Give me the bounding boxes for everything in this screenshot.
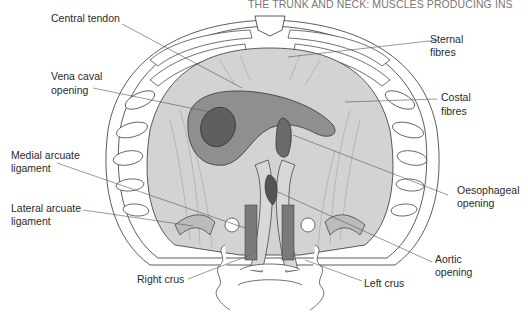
label-central-tendon: Central tendon: [51, 12, 120, 24]
label-aortic-line2: opening: [435, 266, 472, 278]
label-lateral-arcuate-line2: ligament: [11, 215, 51, 227]
label-medial-arcuate-line2: ligament: [11, 162, 51, 174]
label-right-crus: Right crus: [137, 273, 184, 285]
label-sternal-line1: Sternal: [430, 33, 463, 45]
label-oesophageal-line2: opening: [457, 197, 494, 209]
label-left-crus: Left crus: [364, 277, 404, 289]
label-costal-line2: fibres: [441, 105, 467, 117]
label-vena-caval-line2: opening: [51, 84, 88, 96]
left-crus-tendon: [282, 205, 294, 260]
right-crus-tendon: [245, 205, 257, 260]
label-vena-caval-line1: Vena caval: [51, 70, 102, 82]
oesophageal-opening: [276, 118, 291, 157]
label-oesophageal-line1: Oesophageal: [457, 184, 519, 196]
label-medial-arcuate-line1: Medial arcuate: [11, 149, 80, 161]
label-sternal-line2: fibres: [430, 46, 456, 58]
label-costal-line1: Costal: [441, 91, 471, 103]
label-lateral-arcuate-line1: Lateral arcuate: [11, 202, 81, 214]
label-aortic-line1: Aortic: [435, 253, 462, 265]
